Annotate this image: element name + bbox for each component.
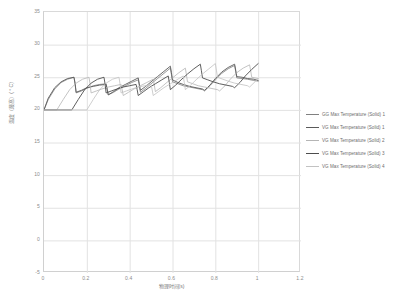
legend-swatch-icon: [306, 140, 319, 141]
y-tick-label: -5: [6, 270, 40, 275]
x-tick-label: 0.8: [201, 276, 227, 281]
legend-item[interactable]: VG Max Temperature (Solid) 2: [306, 134, 402, 147]
legend-label: VG Max Temperature (Solid) 2: [322, 138, 385, 144]
x-tick-label: 1: [244, 276, 270, 281]
series-lines: [44, 12, 301, 273]
legend-swatch-icon: [306, 153, 319, 154]
legend-item[interactable]: VG Max Temperature (Solid) 4: [306, 160, 402, 173]
legend-swatch-icon: [306, 114, 319, 115]
plot-area: [43, 11, 300, 272]
legend-item[interactable]: VG Max Temperature (Solid) 1: [306, 121, 402, 134]
legend-label: VG Max Temperature (Solid) 3: [322, 151, 385, 157]
y-tick-label: 5: [6, 204, 40, 209]
legend-label: VG Max Temperature (Solid) 4: [322, 164, 385, 170]
legend-swatch-icon: [306, 166, 319, 167]
x-tick-label: 1.2: [287, 276, 313, 281]
x-tick-label: 0.6: [159, 276, 185, 281]
x-axis-title: 物理时间(s): [43, 283, 300, 289]
legend-item[interactable]: GG Max Temperature (Solid) 1: [306, 108, 402, 121]
y-tick-label: 30: [6, 41, 40, 46]
legend-label: VG Max Temperature (Solid) 1: [322, 125, 385, 131]
legend-label: GG Max Temperature (Solid) 1: [322, 112, 385, 118]
legend-item[interactable]: VG Max Temperature (Solid) 3: [306, 147, 402, 160]
chart-container: 35302520151050-5 00.20.40.60.811.2 物理时间(…: [0, 0, 402, 290]
y-axis-title: 温度（最高）( ° C): [8, 55, 14, 151]
y-tick-label: 35: [6, 9, 40, 14]
legend-swatch-icon: [306, 127, 319, 128]
x-tick-label: 0.4: [116, 276, 142, 281]
chart-legend: GG Max Temperature (Solid) 1VG Max Tempe…: [306, 108, 402, 173]
y-tick-label: 10: [6, 172, 40, 177]
x-tick-label: 0: [30, 276, 56, 281]
x-tick-label: 0.2: [73, 276, 99, 281]
y-tick-label: 0: [6, 237, 40, 242]
